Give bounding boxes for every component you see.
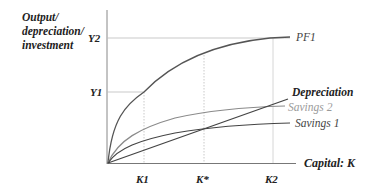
y-axis-label: Output/ depreciation/ investment [22,11,87,51]
savings2-curve [108,106,285,163]
y2-tick-label: Y2 [88,32,101,44]
k2-tick-label: K2 [264,173,278,185]
depreciation-label: Depreciation [291,86,353,99]
x-axis-label: Capital: K [304,156,356,170]
pf1-label: PF1 [295,31,316,43]
kstar-tick-label: K* [195,173,209,185]
savings1-label: Savings 1 [295,117,339,130]
y1-tick-label: Y1 [90,86,102,98]
savings2-label: Savings 2 [288,101,333,114]
depreciation-line [108,99,288,163]
solow-diagram: Output/ depreciation/ investment Y2 Y1 K… [0,0,376,192]
savings1-curve [108,123,290,163]
k1-tick-label: K1 [135,173,149,185]
